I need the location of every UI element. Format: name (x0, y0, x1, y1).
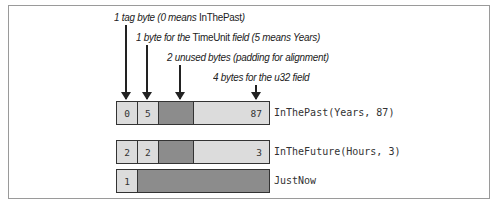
u32-value-cell: 3 (193, 140, 271, 164)
tag-byte-cell: 1 (116, 169, 138, 193)
annotation-text: 2 unused bytes (padding for alignment) (167, 51, 329, 63)
annotation-u32-field: 4 bytes for the u32 field (213, 71, 309, 83)
annotation-text: ) (242, 11, 245, 23)
annotation-tag-byte: 1 tag byte (0 means InThePast) (114, 11, 245, 23)
unit-byte-cell: 2 (137, 140, 160, 164)
unused-cell (137, 169, 271, 193)
memory-layout-row-in-the-past: 0 5 87 (116, 101, 270, 125)
tag-byte-cell: 2 (116, 140, 138, 164)
padding-cell (158, 140, 195, 164)
tag-byte-cell: 0 (116, 101, 138, 125)
variant-label: InTheFuture(Hours, 3) (274, 146, 400, 157)
arrow-down-icon (146, 45, 148, 99)
annotation-code: InThePast (199, 11, 242, 23)
annotation-padding-bytes: 2 unused bytes (padding for alignment) (167, 51, 329, 63)
annotation-text: field (5 means Years) (230, 31, 320, 43)
padding-cell (158, 101, 195, 125)
arrow-down-icon (125, 25, 127, 99)
u32-value-cell: 87 (193, 101, 271, 125)
annotation-text: 4 bytes for the u32 field (213, 71, 309, 83)
annotation-code: TimeUnit (193, 31, 230, 43)
variant-label: JustNow (274, 175, 316, 186)
memory-layout-row-just-now: 1 (116, 169, 270, 193)
arrow-down-icon (255, 85, 257, 99)
annotation-text: 1 tag byte (0 means (114, 11, 199, 23)
annotation-timeunit-byte: 1 byte for the TimeUnit field (5 means Y… (136, 31, 320, 43)
arrow-down-icon (179, 65, 181, 99)
unit-byte-cell: 5 (137, 101, 160, 125)
annotation-text: 1 byte for the (136, 31, 193, 43)
variant-label: InThePast(Years, 87) (274, 107, 394, 118)
memory-layout-row-in-the-future: 2 2 3 (116, 140, 270, 164)
